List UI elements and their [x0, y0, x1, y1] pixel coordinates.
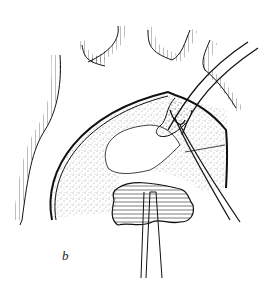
panel-label: b [62, 248, 69, 264]
surgical-illustration [0, 0, 271, 295]
hatched-plug [112, 183, 193, 225]
